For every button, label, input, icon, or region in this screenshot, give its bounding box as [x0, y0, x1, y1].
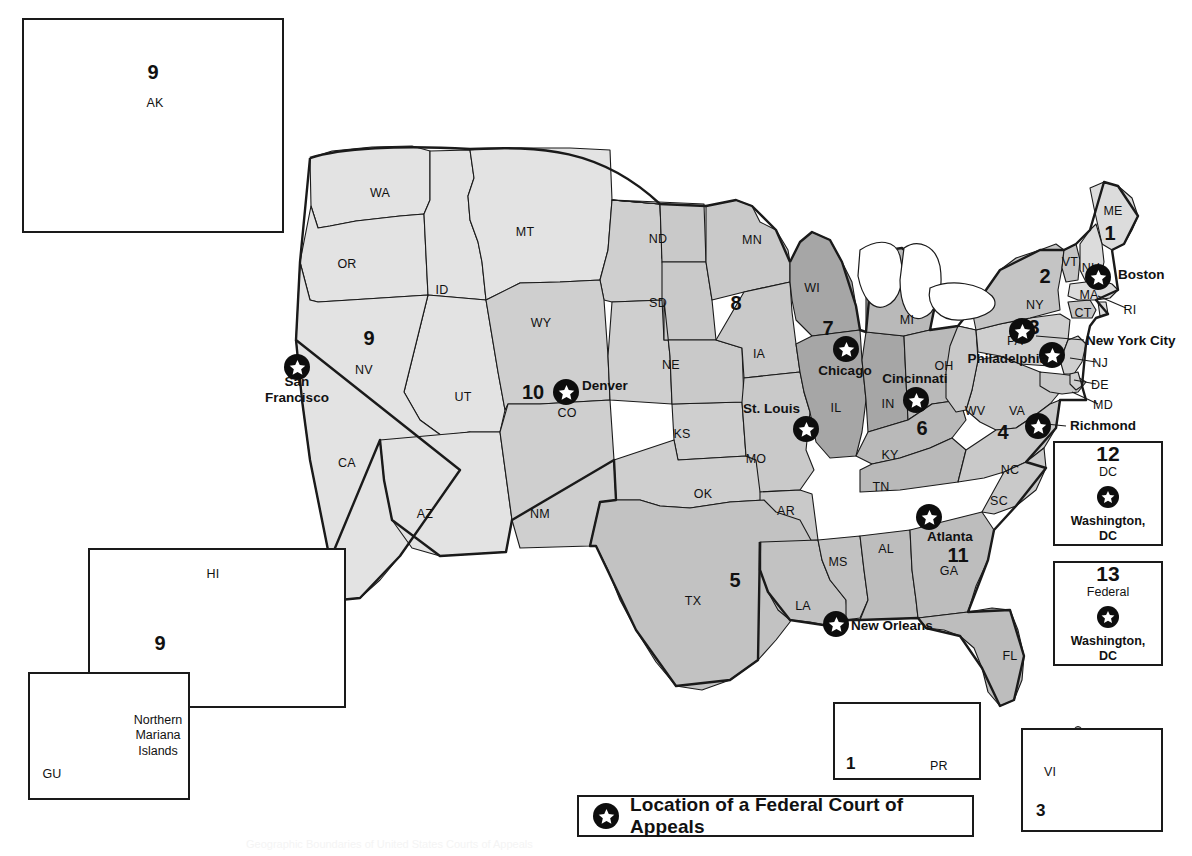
star-in-circle-icon [793, 416, 819, 442]
state-label-ia: IA [753, 348, 765, 361]
dc-box-12-number: 12 [1096, 443, 1119, 465]
court-city-label-st-louis: St. Louis [743, 402, 800, 416]
state-label-ga: GA [940, 565, 958, 578]
state-label-ma: MA [1079, 289, 1098, 302]
state-label-wy: WY [531, 317, 552, 330]
state-label-co: CO [557, 407, 576, 420]
circuit-number-6: 6 [916, 418, 927, 438]
nmi-line2: Mariana [135, 728, 180, 742]
dc-box-12-subtitle: DC [1099, 465, 1117, 479]
puerto-rico-circuit-number: 1 [846, 755, 855, 772]
state-label-mn: MN [742, 234, 762, 247]
star-in-circle-icon [903, 387, 929, 413]
state-label-ky: KY [881, 449, 898, 462]
circuit-number-8: 8 [730, 293, 741, 313]
state-label-wi: WI [804, 282, 820, 295]
court-city-label-philadelphia: Philadelphia [967, 352, 1047, 366]
state-MT [468, 148, 612, 300]
nmi-line1: Northern [134, 713, 183, 727]
state-label-de: DE [1091, 379, 1109, 392]
dc-circuit-box-13: 13 Federal Washington, DC [1053, 561, 1163, 666]
state-label-id: ID [436, 284, 449, 297]
state-label-tx: TX [685, 595, 701, 608]
state-label-fl: FL [1003, 650, 1018, 663]
star-in-circle-icon [593, 803, 619, 829]
guam-abbr-label: GU [42, 768, 61, 781]
state-label-vt: VT [1062, 256, 1078, 269]
star-in-circle-icon [1097, 606, 1119, 628]
state-label-or: OR [337, 258, 356, 271]
star-in-circle-icon [823, 611, 849, 637]
star-in-circle-icon [1085, 264, 1111, 290]
circuit-number-10: 10 [522, 382, 544, 402]
circuit-number-9: 9 [363, 328, 374, 348]
state-label-nm: NM [530, 508, 550, 521]
state-label-mi: MI [900, 314, 914, 327]
dc-box-12-place-line1: Washington, [1071, 514, 1146, 529]
state-label-ut: UT [454, 391, 471, 404]
state-label-ok: OK [694, 488, 712, 501]
court-city-line1: San [285, 374, 310, 389]
circuit-number-2: 2 [1039, 266, 1050, 286]
state-label-md: MD [1093, 399, 1113, 412]
court-city-label-san-francisco: SanFrancisco [265, 374, 329, 406]
state-label-wa: WA [370, 187, 390, 200]
court-city-label-boston: Boston [1118, 268, 1165, 282]
alaska-circuit-number: 9 [147, 62, 158, 82]
state-label-ca: CA [338, 457, 356, 470]
star-in-circle-icon [1009, 318, 1035, 344]
dc-box-12-place-line2: DC [1099, 529, 1117, 544]
alaska-inset-box [22, 18, 284, 233]
figure-caption: Geographic Boundaries of United States C… [246, 838, 533, 850]
state-label-mt: MT [516, 226, 534, 239]
map-legend: Location of a Federal Court of Appeals [577, 795, 974, 837]
dc-circuit-box-12: 12 DC Washington, DC [1053, 441, 1163, 546]
state-label-nv: NV [355, 364, 373, 377]
court-city-label-atlanta: Atlanta [927, 530, 973, 544]
star-in-circle-icon [916, 504, 942, 530]
court-city-label-richmond: Richmond [1070, 419, 1136, 433]
state-label-az: AZ [417, 508, 433, 521]
state-label-wv: WV [965, 405, 986, 418]
dc-box-13-number: 13 [1096, 563, 1119, 585]
court-city-label-new-york-city: New York City [1086, 334, 1176, 348]
puerto-rico-abbr-label: PR [930, 760, 948, 773]
virgin-islands-abbr-label: VI [1044, 766, 1056, 779]
circuit-number-7: 7 [822, 318, 833, 338]
circuit-number-5: 5 [729, 570, 740, 590]
state-label-in: IN [882, 398, 895, 411]
legend-star-wrap [593, 803, 619, 829]
hawaii-state-label: HI [207, 568, 220, 581]
state-label-tn: TN [872, 481, 889, 494]
legend-label: Location of a Federal Court of Appeals [630, 794, 958, 838]
state-label-nc: NC [1001, 464, 1019, 477]
hawaii-circuit-number: 9 [154, 633, 165, 653]
state-label-nd: ND [649, 233, 667, 246]
state-label-ne: NE [662, 359, 680, 372]
court-city-label-denver: Denver [582, 379, 628, 393]
virgin-islands-circuit-number: 3 [1036, 802, 1045, 819]
circuit-map-page: .s{stroke:#1a1a1a;stroke-width:1.1;strok… [0, 0, 1192, 856]
state-label-ny: NY [1026, 299, 1044, 312]
dc-box-13-subtitle: Federal [1087, 585, 1129, 599]
nmi-line3: Islands [138, 744, 178, 758]
star-in-circle-icon [553, 379, 579, 405]
dc-box-12-star-wrap [1055, 484, 1161, 510]
state-polygons [296, 146, 1138, 706]
star-in-circle-icon [1025, 413, 1051, 439]
state-label-ks: KS [673, 428, 690, 441]
dc-box-13-place-line1: Washington, [1071, 634, 1146, 649]
star-in-circle-icon [833, 336, 859, 362]
circuit-number-11: 11 [947, 545, 968, 565]
dc-box-13-star-wrap [1055, 604, 1161, 630]
state-label-nj: NJ [1092, 357, 1108, 370]
alaska-state-label: AK [146, 97, 163, 110]
state-label-sc: SC [990, 495, 1008, 508]
state-label-sd: SD [649, 297, 667, 310]
court-city-label-chicago: Chicago [818, 364, 871, 378]
circuit-number-1: 1 [1104, 223, 1115, 243]
court-city-label-cincinnati: Cincinnati [882, 372, 947, 386]
circuit-number-4: 4 [997, 422, 1008, 442]
state-label-ms: MS [828, 556, 847, 569]
state-label-la: LA [795, 600, 811, 613]
